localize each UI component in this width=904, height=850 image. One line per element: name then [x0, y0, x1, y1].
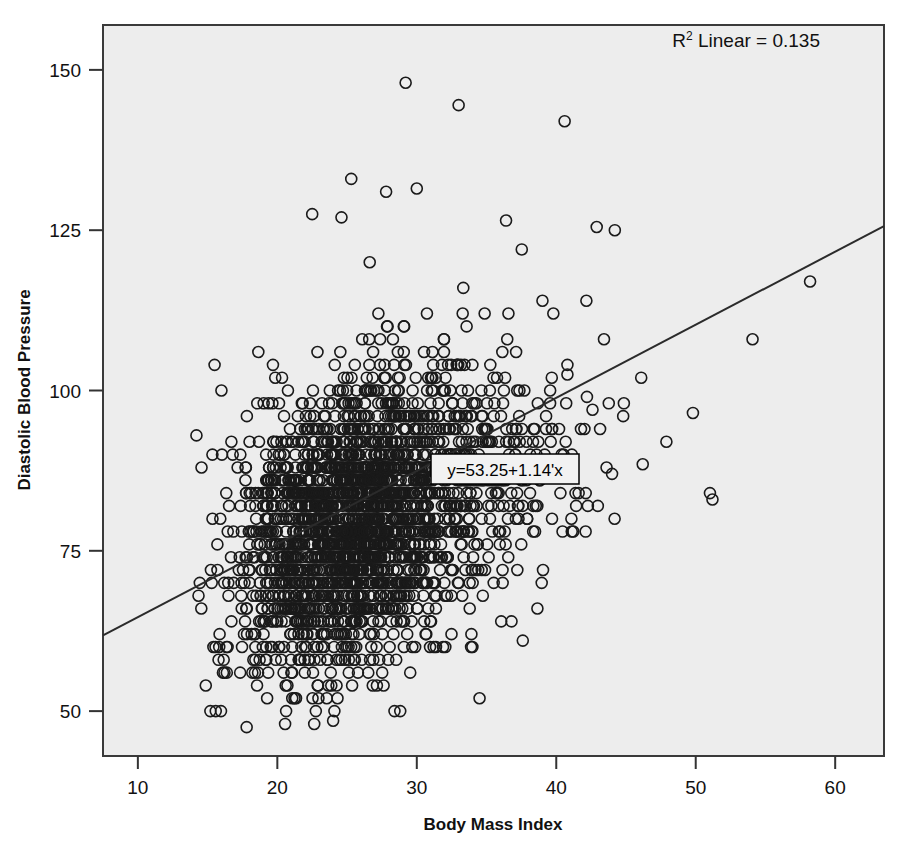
- r-squared-suffix: Linear = 0.135: [693, 30, 820, 51]
- regression-equation-label: y=53.25+1.14'x: [431, 454, 579, 484]
- y-tick-label: 100: [49, 381, 81, 402]
- y-tick-label: 50: [60, 701, 81, 722]
- plot-area-background: [103, 25, 884, 756]
- x-tick-label: 60: [825, 777, 846, 798]
- regression-equation-text: y=53.25+1.14'x: [447, 461, 563, 480]
- x-tick-label: 10: [127, 777, 148, 798]
- r-squared-text: R2 Linear = 0.135: [672, 29, 820, 51]
- y-axis-title: Diastolic Blood Pressure: [15, 289, 34, 490]
- y-tick-label: 150: [49, 60, 81, 81]
- plot-canvas: 102030405060 5075100125150 y=53.25+1.14'…: [0, 0, 904, 850]
- r-squared-label: R2 Linear = 0.135: [672, 29, 820, 51]
- y-tick-label: 75: [60, 541, 81, 562]
- x-tick-label: 40: [546, 777, 567, 798]
- x-axis-title: Body Mass Index: [424, 815, 563, 834]
- r-squared-prefix: R: [672, 30, 686, 51]
- scatter-plot-figure: 102030405060 5075100125150 y=53.25+1.14'…: [0, 0, 904, 850]
- y-tick-label: 125: [49, 220, 81, 241]
- x-tick-label: 20: [267, 777, 288, 798]
- x-tick-label: 50: [685, 777, 706, 798]
- x-tick-label: 30: [406, 777, 427, 798]
